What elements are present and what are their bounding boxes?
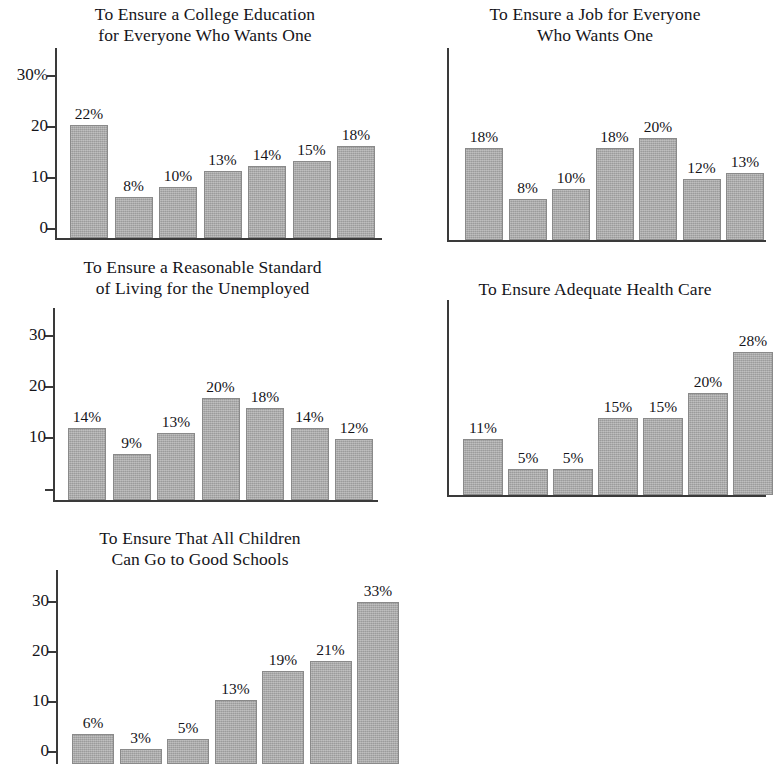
y-axis-tick: [45, 437, 54, 439]
y-axis-tick-label: 10: [0, 692, 49, 709]
bar-value-label: 13%: [712, 154, 777, 170]
bar-value-label: 9%: [99, 435, 165, 451]
bar: [733, 352, 773, 495]
bar-value-label: 20%: [625, 119, 691, 135]
bar: [248, 166, 286, 238]
bar-value-label: 6%: [58, 715, 128, 731]
y-axis-line: [447, 48, 449, 240]
bar-value-label: 10%: [538, 170, 604, 186]
bar: [202, 398, 240, 500]
bar-value-label: 15%: [629, 399, 697, 415]
bar-value-label: 15%: [279, 142, 345, 158]
bar: [204, 171, 242, 238]
bar: [115, 197, 153, 238]
y-axis-tick: [48, 701, 57, 703]
bar: [215, 700, 257, 764]
bar: [508, 469, 548, 495]
y-axis-tick: [45, 489, 54, 491]
y-axis-tick-label: 0: [0, 219, 48, 236]
y-axis-tick-label: 0: [0, 742, 49, 759]
y-axis-tick: [47, 177, 56, 179]
bar-value-label: 13%: [143, 414, 209, 430]
bar-value-label: 5%: [153, 720, 223, 736]
bar: [335, 439, 373, 500]
y-axis-tick: [47, 126, 56, 128]
y-axis-tick-label: 30: [0, 592, 49, 609]
bar: [643, 418, 683, 495]
bar: [639, 138, 677, 240]
x-axis-line: [447, 495, 766, 497]
bar: [167, 739, 209, 764]
y-axis-tick: [45, 335, 54, 337]
y-axis-tick-label: 20: [0, 117, 48, 134]
y-axis-tick: [48, 751, 57, 753]
y-axis-tick-label: 30%: [0, 66, 48, 83]
bar-value-label: 10%: [145, 168, 211, 184]
bar: [120, 749, 162, 764]
bar-value-label: 12%: [321, 420, 387, 436]
x-axis-line: [55, 238, 382, 240]
y-axis-tick-label: 10: [0, 428, 46, 445]
bar: [159, 187, 197, 238]
bar-value-label: 13%: [201, 681, 271, 697]
bar-value-label: 11%: [449, 420, 517, 436]
y-axis-tick: [48, 601, 57, 603]
x-axis-line: [447, 240, 766, 242]
bar-value-label: 22%: [56, 106, 122, 122]
bar-value-label: 18%: [323, 127, 389, 143]
bar-value-label: 18%: [451, 129, 517, 145]
bar-value-label: 14%: [54, 409, 120, 425]
bar: [553, 469, 593, 495]
bar: [683, 179, 721, 240]
bar: [293, 161, 331, 238]
y-axis-tick: [45, 386, 54, 388]
bar-value-label: 20%: [674, 374, 742, 390]
bar-value-label: 33%: [343, 583, 413, 599]
bar: [688, 393, 728, 495]
y-axis-tick: [47, 75, 56, 77]
bar-value-label: 18%: [232, 389, 298, 405]
bar: [291, 428, 329, 500]
bar-value-label: 5%: [539, 450, 607, 466]
bar: [509, 199, 547, 240]
y-axis-tick-label: 10: [0, 168, 48, 185]
bar: [552, 189, 590, 240]
bar-value-label: 28%: [719, 333, 777, 349]
y-axis-tick-label: 20: [0, 377, 46, 394]
bar: [596, 148, 634, 240]
y-axis-line: [56, 570, 58, 764]
y-axis-tick-label: 30: [0, 326, 46, 343]
bar: [337, 146, 375, 238]
y-axis-line: [447, 300, 449, 495]
bar: [262, 671, 304, 764]
y-axis-tick: [48, 651, 57, 653]
bar: [726, 173, 764, 240]
bar: [113, 454, 151, 500]
bar: [157, 433, 195, 500]
y-axis-tick-label: 20: [0, 642, 49, 659]
bar: [310, 661, 352, 764]
bar-value-label: 21%: [296, 642, 366, 658]
bar: [598, 418, 638, 495]
y-axis-tick: [47, 228, 56, 230]
bar: [357, 602, 399, 764]
x-axis-line: [53, 500, 378, 502]
bar: [463, 439, 503, 495]
